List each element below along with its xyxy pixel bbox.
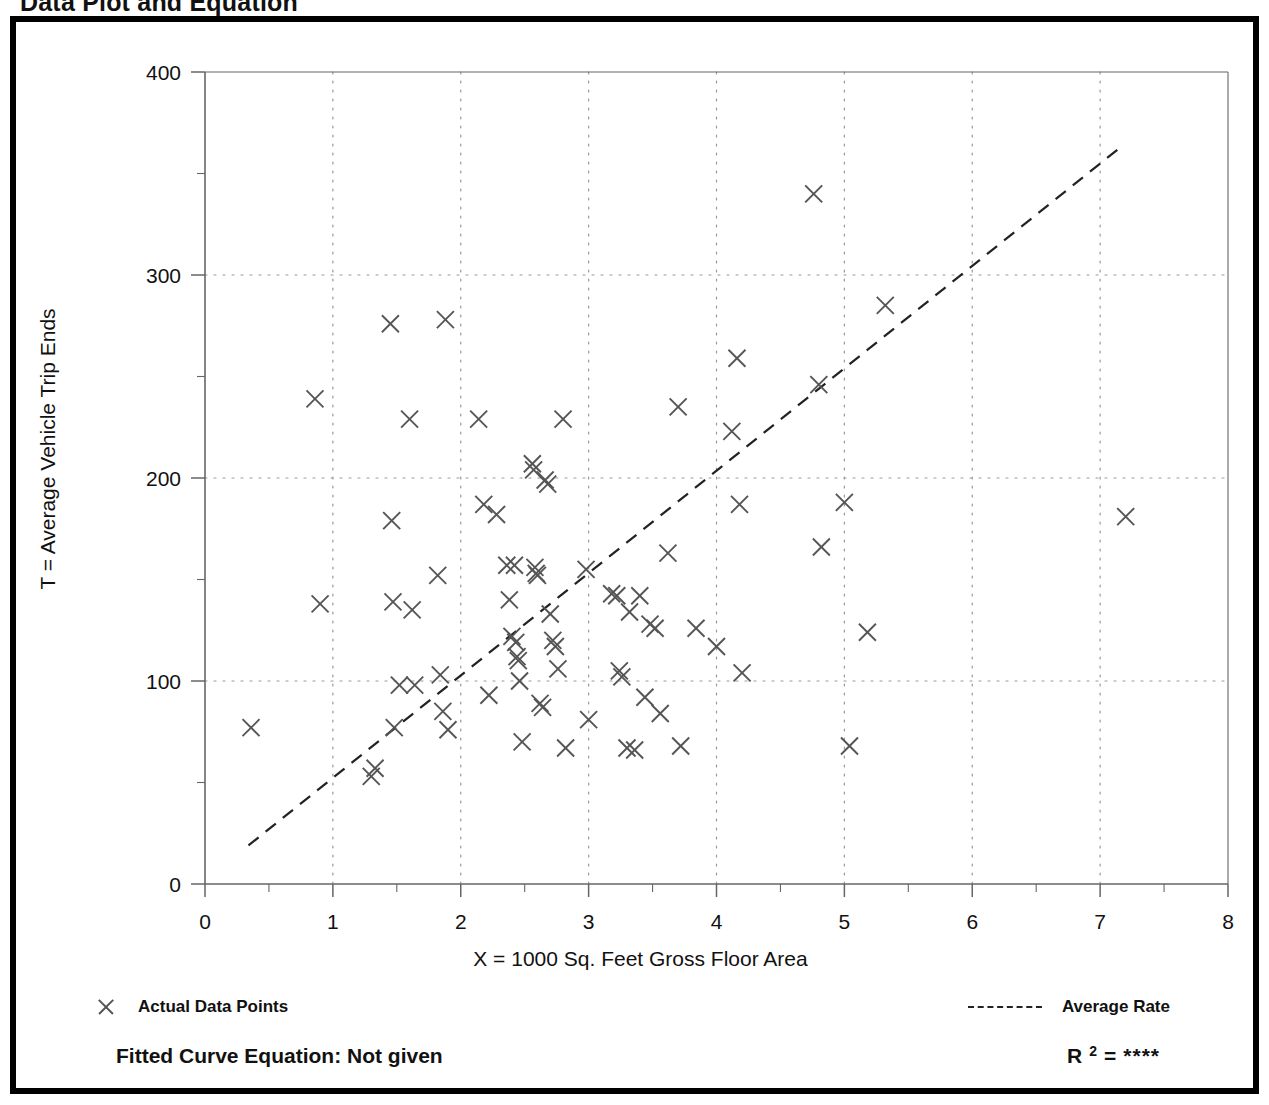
data-point-marker <box>480 687 497 704</box>
chart-frame: 0123456780100200300400 T = Average Vehic… <box>10 16 1259 1094</box>
r-exponent: 2 <box>1089 1043 1097 1059</box>
data-point-marker <box>580 711 597 728</box>
data-point-marker <box>544 632 561 649</box>
data-point-marker <box>859 624 876 641</box>
x-axis-label: X = 1000 Sq. Feet Gross Floor Area <box>16 947 1265 971</box>
data-point-marker <box>429 567 446 584</box>
svg-text:400: 400 <box>146 61 181 84</box>
data-point-marker <box>631 587 648 604</box>
tick-marks <box>191 72 1228 897</box>
x-marker-icon <box>96 997 116 1017</box>
data-point-marker <box>557 739 574 756</box>
svg-text:3: 3 <box>583 910 595 933</box>
data-point-marker <box>386 719 403 736</box>
data-point-marker <box>367 760 384 777</box>
data-point-marker <box>384 593 401 610</box>
y-axis-label: T = Average Vehicle Trip Ends <box>36 249 60 649</box>
data-point-marker <box>841 737 858 754</box>
data-point-marker <box>611 662 628 679</box>
legend-label-data-points: Actual Data Points <box>138 997 288 1017</box>
legend-item-average-rate: Average Rate <box>968 997 1170 1017</box>
data-point-marker <box>672 737 689 754</box>
equals-sign: = <box>1104 1044 1116 1068</box>
data-point-marker <box>542 606 559 623</box>
svg-text:0: 0 <box>199 910 211 933</box>
legend-item-data-points: Actual Data Points <box>96 997 288 1017</box>
fitted-curve-equation: Fitted Curve Equation: Not given <box>116 1044 443 1068</box>
data-point-marker <box>1117 508 1134 525</box>
data-point-marker <box>434 703 451 720</box>
data-point-marker <box>470 411 487 428</box>
svg-text:4: 4 <box>711 910 723 933</box>
r-symbol: R <box>1067 1044 1082 1068</box>
data-point-marker <box>488 506 505 523</box>
data-point-marker <box>401 411 418 428</box>
data-point-marker <box>406 677 423 694</box>
data-point-marker <box>728 350 745 367</box>
data-point-marker <box>613 668 630 685</box>
r-squared-value-group: R2 = **** <box>1067 1044 1160 1068</box>
data-point-marker <box>549 660 566 677</box>
data-point-marker <box>813 539 830 556</box>
data-point-marker <box>670 398 687 415</box>
data-point-marker <box>734 664 751 681</box>
svg-text:7: 7 <box>1094 910 1106 933</box>
data-point-marker <box>547 638 564 655</box>
r-squared-value: **** <box>1123 1044 1160 1068</box>
data-point-marker <box>306 390 323 407</box>
data-point-marker <box>805 185 822 202</box>
data-point-marker <box>621 603 638 620</box>
svg-text:300: 300 <box>146 264 181 287</box>
chart-legend: Actual Data Points Average Rate <box>16 997 1265 1035</box>
page-title: Data Plot and Equation <box>20 0 298 17</box>
data-point-marker <box>243 719 260 736</box>
data-point-marker <box>636 689 653 706</box>
data-point-marker <box>652 705 669 722</box>
svg-text:2: 2 <box>455 910 467 933</box>
dashed-line-icon <box>968 1006 1042 1008</box>
data-point-marker <box>312 595 329 612</box>
data-point-marker <box>877 297 894 314</box>
data-point-marker <box>501 591 518 608</box>
data-point-marker <box>511 673 528 690</box>
data-point-marker <box>439 721 456 738</box>
data-point-marker <box>383 512 400 529</box>
svg-text:6: 6 <box>966 910 978 933</box>
svg-text:0: 0 <box>169 873 181 896</box>
data-point-marker <box>555 411 572 428</box>
data-point-marker <box>514 733 531 750</box>
data-point-marker <box>382 315 399 332</box>
svg-text:8: 8 <box>1222 910 1234 933</box>
tick-labels: 0123456780100200300400 <box>146 61 1234 933</box>
data-point-marker <box>437 311 454 328</box>
data-point-marker <box>647 620 664 637</box>
chart-page: Data Plot and Equation 01234567801002003… <box>0 0 1269 1105</box>
data-point-marker <box>688 620 705 637</box>
plot-area: 0123456780100200300400 <box>16 22 1265 1100</box>
equation-row: Fitted Curve Equation: Not given R2 = **… <box>16 1044 1265 1084</box>
data-point-marker <box>391 677 408 694</box>
svg-text:5: 5 <box>839 910 851 933</box>
grid-lines <box>205 72 1228 884</box>
svg-text:200: 200 <box>146 467 181 490</box>
data-point-marker <box>506 557 523 574</box>
data-point-marker <box>723 423 740 440</box>
legend-label-average-rate: Average Rate <box>1062 997 1170 1017</box>
data-point-marker <box>498 557 515 574</box>
svg-text:100: 100 <box>146 670 181 693</box>
data-point-marker <box>659 545 676 562</box>
data-point-marker <box>503 628 520 645</box>
data-point-marker <box>731 496 748 513</box>
data-point-marker <box>475 496 492 513</box>
scatter-plot-svg: 0123456780100200300400 <box>16 22 1265 1100</box>
data-point-marker <box>404 601 421 618</box>
svg-text:1: 1 <box>327 910 339 933</box>
